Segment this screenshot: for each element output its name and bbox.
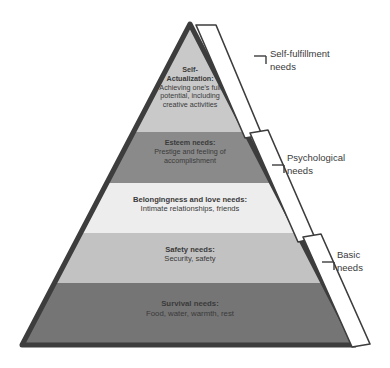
maslow-pyramid-diagram: Self- Actualization: Achieving one's ful… (0, 0, 390, 368)
bracket-label-self-fulfillment: Self-fulfillment needs (270, 48, 382, 73)
bracket-label-psychological: Psychological needs (287, 152, 387, 177)
bracket-label-basic: Basic needs (337, 249, 389, 274)
tier-fill-belongingness-and-love (0, 183, 390, 233)
